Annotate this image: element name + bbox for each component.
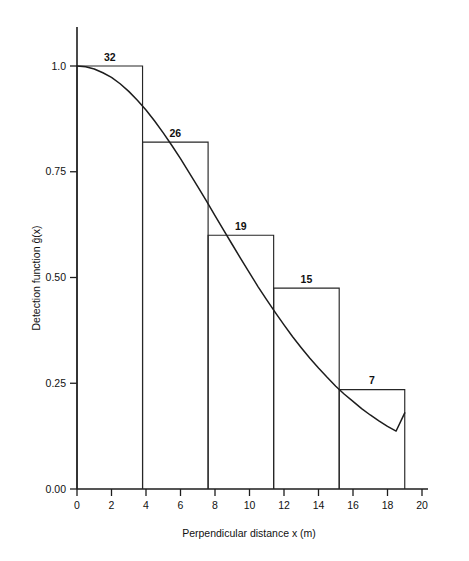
x-tick-label: 0 <box>74 499 80 511</box>
y-axis-tick-labels: 0.000.250.500.751.0 <box>46 60 67 495</box>
x-axis-title: Perpendicular distance x (m) <box>182 527 316 539</box>
y-axis-title: Detection function ĝ(x) <box>30 225 42 330</box>
histogram-bar <box>143 142 209 489</box>
histogram-bar-labels: 322619157 <box>104 51 375 387</box>
x-tick-label: 2 <box>109 499 115 511</box>
detection-function-chart: 0.000.250.500.751.0 02468101214161820 32… <box>0 0 469 561</box>
y-tick-label: 1.0 <box>51 60 66 72</box>
y-tick-label: 0.75 <box>46 165 67 177</box>
histogram-bar <box>339 390 405 489</box>
histogram-bar-count-label: 26 <box>169 127 181 139</box>
y-axis-ticks <box>70 66 77 489</box>
x-tick-label: 8 <box>212 499 218 511</box>
histogram-bar-count-label: 7 <box>369 374 375 386</box>
x-tick-label: 6 <box>178 499 184 511</box>
x-tick-label: 10 <box>244 499 256 511</box>
histogram-bar-count-label: 32 <box>104 51 116 63</box>
histogram-bar-count-label: 15 <box>301 273 313 285</box>
x-tick-label: 12 <box>278 499 290 511</box>
histogram-bar <box>274 288 340 489</box>
x-axis-tick-labels: 02468101214161820 <box>74 499 428 511</box>
chart-figure: 0.000.250.500.751.0 02468101214161820 32… <box>0 0 469 561</box>
y-tick-label: 0.00 <box>46 483 67 495</box>
fitted-detection-curve <box>77 66 405 431</box>
x-tick-label: 18 <box>382 499 394 511</box>
x-tick-label: 14 <box>313 499 325 511</box>
histogram-bar <box>77 66 143 489</box>
x-tick-label: 4 <box>143 499 149 511</box>
histogram-bar <box>208 235 274 489</box>
histogram-bars <box>77 66 405 489</box>
y-tick-label: 0.50 <box>46 271 67 283</box>
histogram-bar-count-label: 19 <box>235 220 247 232</box>
x-axis-ticks <box>77 489 422 496</box>
x-tick-label: 20 <box>416 499 428 511</box>
x-tick-label: 16 <box>347 499 359 511</box>
y-tick-label: 0.25 <box>46 377 67 389</box>
